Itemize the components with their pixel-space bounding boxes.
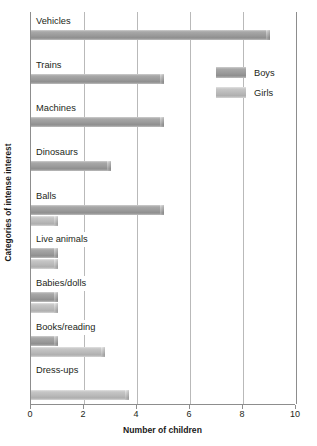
x-tick-label-2: 2	[80, 409, 85, 419]
legend-item-girls: Girls	[216, 86, 302, 102]
y-axis-title-text: Categories of intense interest	[4, 143, 13, 261]
bar-end-cap	[54, 292, 58, 302]
x-tick-label-6: 6	[186, 409, 191, 419]
bar-girls	[31, 390, 129, 400]
bar-end-cap	[160, 74, 164, 84]
bar-boys	[31, 248, 58, 258]
legend: Boys Girls	[216, 66, 302, 106]
legend-swatch-girls	[216, 87, 246, 98]
x-tick-label-10: 10	[290, 409, 300, 419]
category-row: Live animals	[31, 230, 295, 274]
bar-boys	[31, 117, 164, 127]
bar-end-cap	[160, 117, 164, 127]
x-tick-label-4: 4	[133, 409, 138, 419]
legend-item-boys: Boys	[216, 66, 302, 82]
bar-boys	[31, 205, 164, 215]
x-axis-title: Number of children	[30, 425, 295, 435]
bar-boys	[31, 161, 111, 171]
bar-end-cap	[54, 303, 58, 313]
x-tick-label-0: 0	[27, 409, 32, 419]
category-label: Vehicles	[33, 14, 75, 29]
x-tick-label-8: 8	[239, 409, 244, 419]
category-label: Machines	[33, 101, 80, 116]
category-row: Dress-ups	[31, 361, 295, 405]
category-row: Babies/dolls	[31, 274, 295, 318]
bar-girls	[31, 303, 58, 313]
category-row: Books/reading	[31, 318, 295, 362]
category-label: Live animals	[33, 232, 92, 247]
bar-end-cap	[54, 259, 58, 269]
category-row: Vehicles	[31, 12, 295, 56]
bar-end-cap	[101, 347, 105, 357]
bar-boys	[31, 336, 58, 346]
bar-chart: Categories of intense interest VehiclesT…	[0, 0, 317, 446]
bar-end-cap	[107, 161, 111, 171]
x-axis-tick-labels: 0246810	[0, 409, 317, 423]
category-row: Dinosaurs	[31, 143, 295, 187]
bar-end-cap	[266, 30, 270, 40]
bar-girls	[31, 259, 58, 269]
bar-end-cap	[54, 336, 58, 346]
y-axis-title: Categories of intense interest	[0, 0, 16, 405]
category-label: Trains	[33, 58, 66, 73]
bar-boys	[31, 292, 58, 302]
category-label: Dinosaurs	[33, 145, 82, 160]
category-label: Dress-ups	[33, 363, 82, 378]
bar-end-cap	[54, 248, 58, 258]
bar-end-cap	[125, 390, 129, 400]
bar-boys	[31, 30, 270, 40]
bar-girls	[31, 347, 105, 357]
category-label: Balls	[33, 189, 60, 204]
bar-boys	[31, 74, 164, 84]
bar-girls	[31, 216, 58, 226]
legend-swatch-boys	[216, 67, 246, 78]
category-label: Babies/dolls	[33, 276, 90, 291]
bar-end-cap	[160, 205, 164, 215]
legend-label-boys: Boys	[254, 66, 275, 80]
legend-label-girls: Girls	[254, 86, 273, 100]
category-row: Balls	[31, 187, 295, 231]
bar-end-cap	[54, 216, 58, 226]
category-label: Books/reading	[33, 320, 99, 335]
